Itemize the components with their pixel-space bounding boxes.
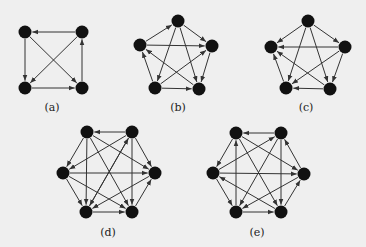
graph-nodes-b <box>134 15 219 96</box>
edge-d-BR-to-R <box>136 179 152 206</box>
node-a-TL <box>19 26 32 39</box>
node-a-TR <box>76 26 89 39</box>
node-d-BL <box>80 206 93 219</box>
node-e-BL <box>230 206 243 219</box>
edge-c-T-to-BL <box>288 28 306 81</box>
graph-panel-e <box>217 133 301 212</box>
node-c-BR <box>324 83 337 96</box>
edge-b-L-to-T <box>146 25 172 41</box>
node-b-L <box>134 39 147 52</box>
edge-c-BL-to-L <box>274 54 284 82</box>
node-c-BL <box>280 82 293 95</box>
edge-b-T-to-R <box>184 25 206 42</box>
node-a-BR <box>76 82 89 95</box>
node-b-BL <box>149 82 162 95</box>
node-c-L <box>265 41 278 54</box>
panel-label-c: (c) <box>299 101 314 114</box>
edge-c-BR-to-L <box>277 51 324 85</box>
edge-d-TL-to-BL <box>86 139 87 205</box>
panel-label-a: (a) <box>44 101 59 114</box>
figure-canvas: (a) (b) (c) (d) (e) <box>0 0 366 247</box>
node-b-T <box>172 15 185 28</box>
graph-panel-a <box>25 32 82 88</box>
node-a-BL <box>19 82 32 95</box>
edge-b-BL-to-R <box>161 50 206 84</box>
edge-e-BR-to-R <box>285 180 301 206</box>
node-d-L <box>57 167 70 180</box>
node-b-BR <box>193 83 206 96</box>
node-c-T <box>302 15 315 28</box>
edge-b-BL-to-L <box>142 52 152 81</box>
node-d-BR <box>126 206 139 219</box>
edge-d-TL-to-R <box>93 136 149 170</box>
graph-panel-b <box>142 25 210 89</box>
edge-b-T-to-BR <box>180 28 197 82</box>
node-e-L <box>207 167 220 180</box>
edge-b-BR-to-L <box>146 49 194 84</box>
edge-d-TR-to-L <box>69 136 126 170</box>
panel-label-e: (e) <box>249 226 264 239</box>
graph-panel-d <box>67 132 152 212</box>
node-e-BR <box>275 206 288 219</box>
edge-c-BR-to-BL <box>293 88 323 89</box>
graph-nodes-c <box>265 15 352 96</box>
edges-layer <box>25 25 343 212</box>
node-d-TR <box>126 126 139 139</box>
edge-b-BL-to-BR <box>162 88 192 89</box>
node-e-R <box>298 168 311 181</box>
edge-c-R-to-BR <box>332 54 342 83</box>
panel-label-d: (d) <box>100 226 116 239</box>
node-d-TL <box>81 126 94 139</box>
panel-label-b: (b) <box>170 101 186 114</box>
edge-b-T-to-BL <box>157 28 175 81</box>
edge-c-T-to-BR <box>310 28 328 82</box>
edge-b-R-to-BR <box>201 53 210 82</box>
edge-c-T-to-L <box>277 25 302 43</box>
node-e-TL <box>230 127 243 140</box>
edge-b-L-to-R <box>147 45 205 46</box>
graph-panel-c <box>274 25 343 89</box>
node-b-R <box>206 40 219 53</box>
node-e-TR <box>275 127 288 140</box>
node-c-R <box>339 41 352 54</box>
directed-graphs-figure <box>0 0 366 247</box>
node-d-R <box>149 167 162 180</box>
edge-c-T-to-R <box>314 25 339 43</box>
